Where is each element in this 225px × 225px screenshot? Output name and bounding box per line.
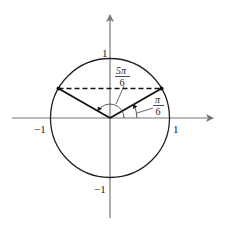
pi-over-6-numerator: π <box>155 94 161 105</box>
x-right-label: 1 <box>173 123 179 135</box>
point-5pi-over-6 <box>57 87 61 91</box>
five-pi-over-6-denominator: 6 <box>120 77 125 88</box>
five-pi-over-6-numerator: 5π <box>116 65 127 76</box>
point-pi-over-6 <box>160 87 164 91</box>
radius-pi-over-6 <box>110 89 162 119</box>
arc-5pi-over-6 <box>98 104 124 118</box>
x-left-label: −1 <box>34 123 46 135</box>
unit-circle-diagram: 1 −1 −1 1 5π 6 π 6 <box>0 0 225 225</box>
pi-over-6-denominator: 6 <box>156 106 161 117</box>
y-top-label: 1 <box>102 47 108 59</box>
arc-pi-over-6 <box>133 105 137 119</box>
radius-5pi-over-6 <box>59 89 111 119</box>
y-bottom-label: −1 <box>94 183 106 195</box>
leader-pi-over-6 <box>137 108 153 113</box>
